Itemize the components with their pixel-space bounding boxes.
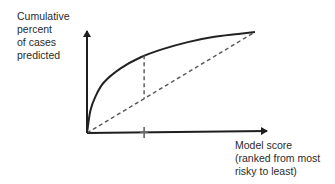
x-axis-label: Model score (ranked from most risky to l… <box>235 139 320 178</box>
x-axis-tick-marker <box>140 127 148 138</box>
x-axis <box>87 131 267 133</box>
